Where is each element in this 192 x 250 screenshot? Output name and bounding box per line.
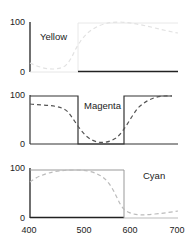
x-tick-600: 600	[122, 225, 137, 235]
y-tick-100: 100	[10, 90, 25, 100]
panel-magenta: 100 0 Magenta	[10, 90, 178, 149]
x-tick-500: 500	[76, 225, 91, 235]
panel-title-cyan: Cyan	[143, 170, 165, 181]
y-tick-100: 100	[10, 17, 25, 27]
y-tick-100: 100	[10, 163, 25, 173]
x-tick-400: 400	[21, 225, 36, 235]
measured-curve	[30, 22, 178, 69]
y-tick-0: 0	[20, 213, 25, 223]
y-tick-0: 0	[20, 139, 25, 149]
y-tick-0: 0	[20, 67, 25, 77]
panel-title-magenta: Magenta	[84, 100, 122, 111]
panel-cyan: 100 0 Cyan 400 500 600 700	[10, 163, 185, 235]
panel-title-yellow: Yellow	[40, 31, 67, 42]
panel-yellow: 100 0 Yellow	[10, 17, 178, 77]
ideal-filter-line	[30, 170, 124, 218]
x-tick-700: 700	[169, 225, 184, 235]
filter-response-charts: 100 0 Yellow 100 0 Magenta 100 0 Cyan 40…	[0, 0, 192, 250]
